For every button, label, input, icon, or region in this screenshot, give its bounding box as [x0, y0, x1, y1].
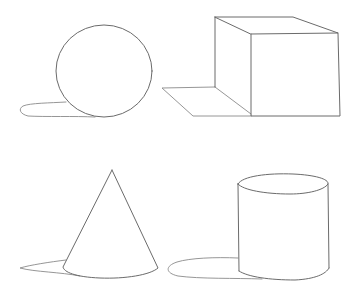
- cone: [20, 170, 158, 278]
- sphere-shadow: [20, 102, 95, 117]
- cube: [162, 17, 340, 116]
- cylinder: [168, 174, 329, 280]
- geometric-solids-drawing: [0, 0, 353, 295]
- sphere: [20, 25, 152, 117]
- cylinder-top: [238, 174, 328, 194]
- cube-front-face: [251, 33, 340, 116]
- sphere-outline: [56, 25, 152, 117]
- cube-shadow-edge: [215, 87, 251, 114]
- cylinder-shadow: [168, 258, 262, 279]
- cylinder-right-side: [328, 184, 329, 268]
- cone-outline: [63, 170, 158, 278]
- drawing-canvas: [0, 0, 353, 295]
- cube-shadow: [162, 87, 251, 116]
- cube-top-face: [215, 17, 338, 34]
- cylinder-base: [239, 268, 329, 280]
